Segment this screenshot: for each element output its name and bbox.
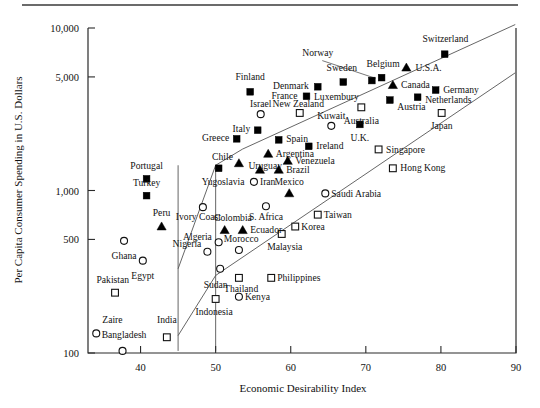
marker-filled-triangle[interactable] (157, 222, 166, 230)
point-label: Peru (153, 207, 171, 218)
point-label: Turkey (133, 177, 161, 188)
marker-open-square[interactable] (375, 146, 382, 153)
axis-frame (88, 28, 516, 353)
x-tick-label: 50 (210, 362, 221, 373)
x-axis-title: Economic Desirability Index (239, 382, 367, 394)
point-label: Uruguay (248, 160, 282, 171)
point-label: Kuwait (317, 110, 346, 121)
marker-open-square[interactable] (358, 104, 365, 111)
point-label: Germany (443, 84, 479, 95)
marker-open-square[interactable] (389, 165, 396, 172)
point-label: Indonesia (195, 306, 233, 317)
point-label: Philippines (277, 272, 320, 283)
point-label: Netherlands (425, 94, 472, 105)
point-label: Colombia (214, 212, 253, 223)
point-label: Finland (236, 71, 266, 82)
point-label: Brazil (286, 164, 310, 175)
lower-band-polyline (178, 73, 515, 336)
marker-open-square[interactable] (268, 274, 275, 281)
marker-filled-triangle[interactable] (264, 149, 273, 157)
marker-filled-square[interactable] (215, 165, 222, 172)
x-tick-label: 70 (361, 362, 372, 373)
point-label: Spain (286, 133, 308, 144)
y-tick-label: 10,000 (50, 23, 79, 34)
marker-filled-square[interactable] (143, 192, 150, 199)
marker-open-square[interactable] (296, 110, 303, 117)
marker-filled-triangle[interactable] (402, 63, 411, 71)
marker-open-square[interactable] (212, 296, 219, 303)
marker-filled-square[interactable] (254, 127, 261, 134)
marker-filled-square[interactable] (340, 79, 347, 86)
marker-open-circle[interactable] (262, 203, 269, 210)
point-label: Switzerland (423, 33, 469, 44)
point-label: Ghana (112, 250, 138, 261)
marker-filled-square[interactable] (368, 77, 375, 84)
point-label: Iran (260, 176, 276, 187)
x-tick-label: 60 (285, 362, 296, 373)
marker-open-circle[interactable] (215, 239, 222, 246)
point-label: Nigeria (173, 238, 203, 249)
point-label: Israel (250, 98, 272, 109)
marker-open-square[interactable] (438, 110, 445, 117)
marker-open-circle[interactable] (121, 237, 128, 244)
point-label: Bangladesh (102, 329, 147, 340)
y-tick-label: 1,000 (55, 186, 79, 197)
point-label: Hong Kong (400, 162, 445, 173)
x-tick-label: 90 (511, 362, 522, 373)
point-label: Taiwan (324, 209, 352, 220)
y-tick-label: 500 (63, 234, 79, 245)
point-label: Australia (344, 115, 380, 126)
marker-open-circle[interactable] (139, 257, 146, 264)
point-label: Sweden (327, 62, 358, 73)
marker-open-square[interactable] (292, 223, 299, 230)
marker-filled-square[interactable] (275, 136, 282, 143)
marker-open-circle[interactable] (257, 111, 264, 118)
marker-filled-square[interactable] (247, 88, 254, 95)
point-label: Yugoslavia (202, 176, 245, 187)
point-labels: SwitzerlandU.S.A.NorwayBelgiumSwedenCana… (97, 33, 480, 340)
marker-filled-triangle[interactable] (285, 189, 294, 197)
marker-filled-square[interactable] (432, 87, 439, 94)
point-label: Pakistan (97, 274, 130, 285)
point-label: Chile (212, 151, 233, 162)
point-label: Portugal (130, 160, 163, 171)
marker-open-square[interactable] (314, 211, 321, 218)
marker-open-square[interactable] (236, 274, 243, 281)
marker-filled-square[interactable] (314, 83, 321, 90)
marker-open-circle[interactable] (93, 330, 100, 337)
point-label: Italy (233, 123, 251, 134)
point-label: India (157, 314, 177, 325)
marker-open-circle[interactable] (322, 190, 329, 197)
marker-open-circle[interactable] (199, 204, 206, 211)
marker-filled-square[interactable] (414, 94, 421, 101)
marker-open-square[interactable] (163, 334, 170, 341)
point-label: Korea (301, 221, 325, 232)
point-label: U.S.A. (415, 62, 441, 73)
marker-filled-triangle[interactable] (234, 159, 243, 167)
x-tick-label: 80 (436, 362, 447, 373)
marker-open-circle[interactable] (235, 247, 242, 254)
point-label: S. Africa (249, 211, 284, 222)
marker-filled-square[interactable] (378, 74, 385, 81)
point-label: Belgium (367, 58, 401, 69)
marker-filled-square[interactable] (233, 135, 240, 142)
point-label: Kenya (245, 291, 271, 302)
point-label: Saudi Arabia (331, 188, 382, 199)
point-label: Mexico (275, 176, 305, 187)
marker-filled-square[interactable] (441, 51, 448, 58)
axes (88, 28, 516, 353)
y-axis-title: Per Capita Consumer Spending in U.S. Dol… (12, 76, 24, 283)
marker-open-circle[interactable] (250, 178, 257, 185)
marker-open-circle[interactable] (119, 347, 126, 354)
point-label: Canada (401, 79, 431, 90)
y-tick-label: 100 (63, 348, 79, 359)
marker-open-circle[interactable] (204, 248, 211, 255)
marker-open-square[interactable] (112, 289, 119, 296)
point-label: Malaysia (267, 241, 303, 252)
marker-open-circle[interactable] (217, 265, 224, 272)
marker-open-circle[interactable] (328, 122, 335, 129)
y-tick-label: 5,000 (55, 72, 79, 83)
marker-filled-square[interactable] (386, 97, 393, 104)
point-label: Greece (202, 132, 229, 143)
point-label: Morocco (224, 233, 259, 244)
